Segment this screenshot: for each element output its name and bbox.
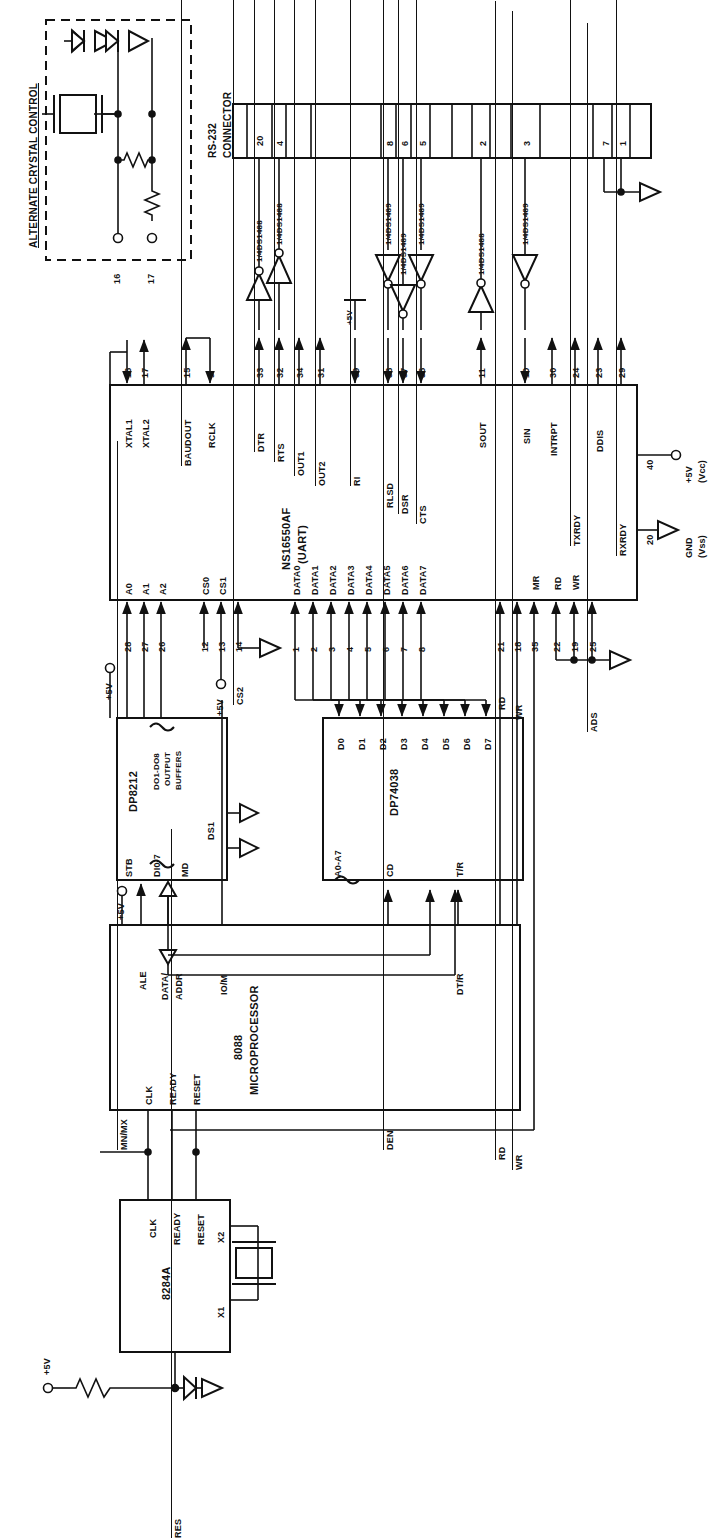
uart-pinnum-10: 10 <box>521 368 531 378</box>
cpu-pin-wr: WR <box>514 461 524 1170</box>
cpu-pin-ready: READY <box>168 1072 178 1105</box>
driver-label-6: 1/4DS1489 <box>521 203 530 245</box>
driver-label-1: 1/4DS1488 <box>275 203 284 245</box>
dp74038-pin-d7: D7 <box>483 738 493 750</box>
uart-pinnum-29: 29 <box>617 368 627 378</box>
uart-pin-xtal2: XTAL2 <box>141 419 151 448</box>
uart-pinnum-22: 22 <box>552 642 562 652</box>
uart-pin-baudout: BAUDOUT <box>183 0 193 466</box>
uart-pin-data0: DATA0 <box>292 565 302 595</box>
uart-pinnum-32: 32 <box>275 368 285 378</box>
uart-pin-cts: CTS <box>418 0 428 524</box>
driver-label-0: 1/4DS1488 <box>255 220 264 262</box>
uart-pin-data5: DATA5 <box>382 565 392 595</box>
dp8212-pin-md: MD <box>180 863 190 877</box>
uart-pin-sout: SOUT <box>478 422 488 448</box>
uart-pinnum-9: 9 <box>206 373 216 378</box>
uart-pin-out1: OUT1 <box>296 0 306 476</box>
uart-vcc-label: +5V <box>684 466 694 483</box>
uart-pin-rd-bar: RD <box>497 1 507 710</box>
uart-pin-cs1: CS1 <box>218 577 228 595</box>
uart-pin-data3: DATA3 <box>346 565 356 595</box>
uart-pinnum-8: 8 <box>417 647 427 652</box>
alternate-crystal-control-label: ALTERNATE CRYSTAL CONTROL <box>28 83 39 248</box>
dp74038-part-name: DP74038 <box>388 769 400 816</box>
crystal-pin-16-label: 16 <box>112 274 122 284</box>
uart-pinnum-6: 6 <box>381 647 391 652</box>
uart-pinnum-14: 14 <box>234 642 244 652</box>
uart-pinnum-34: 34 <box>295 368 305 378</box>
uart-pin-out2: OUT2 <box>317 0 327 486</box>
dp74038-pin-tr: T/R <box>455 862 465 877</box>
dp74038-pin-a0a7: A0-A7 <box>333 850 343 877</box>
uart-pinnum-30: 30 <box>548 368 558 378</box>
dp8212-block-label-3: BUFFERS <box>174 751 183 790</box>
clock-pin-x1: X1 <box>216 1307 226 1318</box>
uart-pin-wr-bar: WR <box>514 11 524 720</box>
cpu-pin-clk: CLK <box>144 1086 154 1105</box>
clock-out-ready: READY <box>172 1212 182 1245</box>
cpu-pin-rd: RD <box>497 451 507 1160</box>
cpu-name-line1: 8088 <box>232 1035 244 1060</box>
uart-pin-rxrdy: RXRDY <box>618 0 628 556</box>
uart-pin-data2: DATA2 <box>328 565 338 595</box>
driver-label-2: 1/4DS1489 <box>384 203 393 245</box>
cpu-pin-data: DATA/ <box>160 973 170 1000</box>
uart-pinnum-39: 39 <box>351 368 361 378</box>
uart-pin-xtal1: XTAL1 <box>124 419 134 448</box>
supply-label-ri: +5V <box>345 310 354 325</box>
uart-pin-a1: A1 <box>141 583 151 595</box>
dp74038-pin-d5: D5 <box>441 738 451 750</box>
cpu-pin-den: DEN <box>385 441 395 1150</box>
dp74038-pin-d1: D1 <box>357 738 367 750</box>
clock-pin-x2: X2 <box>216 1232 226 1243</box>
uart-pinnum-25: 25 <box>588 642 598 652</box>
driver-label-4: 1/4DS1489 <box>417 203 426 245</box>
uart-pin-cs0: CS0 <box>201 577 211 595</box>
uart-pin-rlsd: RLSD <box>385 0 395 508</box>
uart-pinnum-7: 7 <box>399 647 409 652</box>
uart-pinnum-2: 2 <box>309 647 319 652</box>
rs232-pin-8: 8 <box>385 141 395 146</box>
driver-label-3: 1/4DS1489 <box>399 233 408 275</box>
uart-gnd-label: GND <box>684 537 694 558</box>
uart-pin-ri: RI <box>352 0 362 486</box>
uart-pinnum-38: 38 <box>384 368 394 378</box>
clock-part-name: 8284A <box>160 1267 172 1300</box>
cpu-pin-ale: ALE <box>138 971 148 990</box>
uart-pin-ads: ADS <box>589 23 599 732</box>
uart-pin-dtr: DTR <box>256 0 266 452</box>
rs232-label-line1: RS-232 <box>207 123 218 158</box>
uart-pinnum-11: 11 <box>477 368 487 378</box>
dp8212-pin-stb: STB <box>124 858 134 877</box>
crystal-pin-17-label: 17 <box>146 274 156 284</box>
uart-pin-a2: A2 <box>158 583 168 595</box>
rs232-pin-1: 1 <box>618 141 628 146</box>
clock-pin-res: RES <box>173 829 183 1538</box>
uart-pinnum-35: 35 <box>530 642 540 652</box>
dp74038-pin-d0: D0 <box>336 738 346 750</box>
dp8212-supply-label: +5V <box>104 683 114 700</box>
uart-pinnum-20: 20 <box>645 535 655 545</box>
uart-part-sub: (UART) <box>296 525 308 564</box>
uart-pinnum-24: 24 <box>571 368 581 378</box>
cpu-pin-dtr: DT/R <box>455 973 465 995</box>
driver-label-5: 1/4DS1488 <box>477 233 486 275</box>
uart-pin-data4: DATA4 <box>364 565 374 595</box>
cs1-supply-label: +5V <box>215 699 225 716</box>
uart-pin-ddis: DDIS <box>595 430 605 452</box>
dp74038-pin-cd: CD <box>385 864 395 877</box>
uart-pinnum-23: 23 <box>594 368 604 378</box>
clock-out-reset: RESET <box>196 1214 206 1245</box>
dp74038-pin-d6: D6 <box>462 738 472 750</box>
uart-pinnum-15: 15 <box>182 368 192 378</box>
uart-pin-data6: DATA6 <box>400 565 410 595</box>
uart-pinnum-33: 33 <box>255 368 265 378</box>
uart-pinnum-36: 36 <box>417 368 427 378</box>
uart-pin-txrdy: TXRDY <box>572 0 582 546</box>
uart-pin-mr: MR <box>531 576 541 590</box>
rs232-pin-3: 3 <box>522 141 532 146</box>
